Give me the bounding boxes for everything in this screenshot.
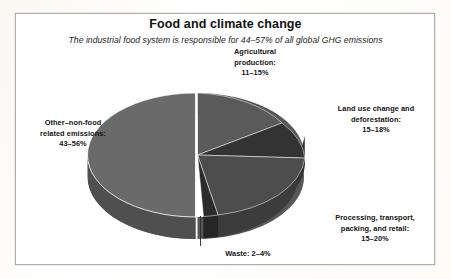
label-processing-transport: Processing, transport, packing, and reta… [316, 213, 434, 245]
label-land-use-line2: deforestation: [320, 115, 432, 126]
label-waste: Waste: 2–4% [188, 249, 308, 260]
label-other-line2: related emissions: [14, 129, 132, 140]
label-land-use-change: Land use change and deforestation: 15–18… [320, 104, 432, 136]
label-other-non-food: Other–non-food related emissions: 43–56% [14, 118, 132, 150]
label-agricultural-line1: Agricultural [200, 47, 310, 58]
label-waste-line1: Waste: 2–4% [188, 249, 308, 260]
label-agricultural-production: Agricultural production: 11–15% [200, 47, 310, 79]
label-other-line1: Other–non-food [14, 118, 132, 129]
label-processing-line2: packing, and retail: [316, 224, 434, 235]
label-land-use-value: 15–18% [320, 125, 432, 136]
label-processing-value: 15–20% [316, 234, 434, 245]
label-agricultural-value: 11–15% [200, 68, 310, 79]
label-other-value: 43–56% [14, 139, 132, 150]
label-agricultural-line2: production: [200, 58, 310, 69]
label-processing-line1: Processing, transport, [316, 213, 434, 224]
label-land-use-line1: Land use change and [320, 104, 432, 115]
